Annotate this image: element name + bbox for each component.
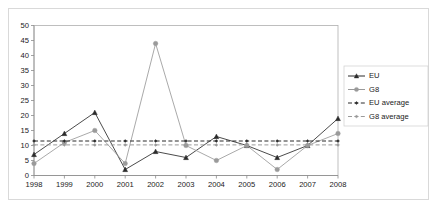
legend-item-label: G8 average bbox=[369, 112, 409, 121]
x-tick-label: 2001 bbox=[117, 180, 134, 189]
data-point-marker bbox=[93, 128, 98, 133]
y-tick-label: 10 bbox=[21, 141, 29, 150]
data-point-marker bbox=[336, 131, 341, 136]
chart-screenshot: 05101520253035404550 1998199920002001200… bbox=[0, 0, 438, 209]
x-tick-label: 1998 bbox=[26, 180, 43, 189]
data-point-marker bbox=[214, 158, 219, 163]
data-point-marker bbox=[123, 161, 128, 166]
legend-item-label: EU bbox=[369, 71, 380, 80]
x-tick-label: 1999 bbox=[56, 180, 73, 189]
x-tick-label: 2004 bbox=[208, 180, 225, 189]
x-tick-label: 2000 bbox=[86, 180, 103, 189]
y-tick-label: 30 bbox=[21, 81, 29, 90]
y-tick-label: 35 bbox=[21, 66, 29, 75]
plot-area bbox=[34, 26, 338, 176]
line-chart: 05101520253035404550 1998199920002001200… bbox=[0, 0, 438, 209]
y-tick-label: 0 bbox=[25, 171, 29, 180]
data-point-marker bbox=[275, 167, 280, 172]
x-tick-label: 2007 bbox=[299, 180, 316, 189]
data-point-marker bbox=[354, 87, 358, 91]
y-tick-label: 20 bbox=[21, 111, 29, 120]
y-tick-label: 40 bbox=[21, 51, 29, 60]
legend-item-label: G8 bbox=[369, 85, 379, 94]
y-tick-label: 45 bbox=[21, 36, 29, 45]
data-point-marker bbox=[32, 161, 37, 166]
y-tick-label: 50 bbox=[21, 21, 29, 30]
chart-legend: EUG8EU averageG8 average bbox=[344, 66, 428, 126]
x-tick-label: 2006 bbox=[269, 180, 286, 189]
x-tick-label: 2008 bbox=[330, 180, 347, 189]
y-tick-label: 15 bbox=[21, 126, 29, 135]
x-tick-label: 2005 bbox=[238, 180, 255, 189]
x-tick-label: 2002 bbox=[147, 180, 164, 189]
y-tick-label: 25 bbox=[21, 96, 29, 105]
data-point-marker bbox=[153, 41, 158, 46]
legend-item-label: EU average bbox=[369, 98, 409, 107]
y-tick-label: 5 bbox=[25, 156, 29, 165]
x-tick-label: 2003 bbox=[178, 180, 195, 189]
y-axis-tick-labels: 05101520253035404550 bbox=[21, 21, 29, 180]
x-axis-tick-labels: 1998199920002001200220032004200520062007… bbox=[26, 180, 347, 189]
